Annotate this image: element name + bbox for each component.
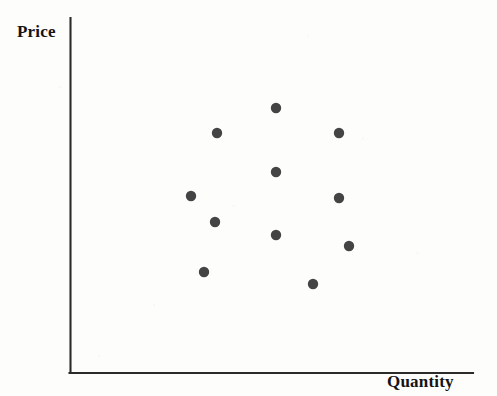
data-point — [199, 267, 209, 277]
data-point — [344, 241, 354, 251]
x-axis-label: Quantity — [387, 372, 454, 392]
data-point — [186, 191, 196, 201]
data-point — [271, 167, 281, 177]
axis-lines — [70, 18, 474, 373]
data-point — [271, 230, 281, 240]
data-point — [212, 128, 222, 138]
data-point — [334, 193, 344, 203]
data-point-group — [186, 103, 354, 289]
scatter-plot-figure: Price Quantity — [0, 0, 497, 396]
y-axis-label: Price — [17, 22, 56, 42]
data-point — [334, 128, 344, 138]
plot-canvas — [0, 0, 497, 396]
data-point — [271, 103, 281, 113]
data-point — [308, 279, 318, 289]
data-point — [210, 217, 220, 227]
